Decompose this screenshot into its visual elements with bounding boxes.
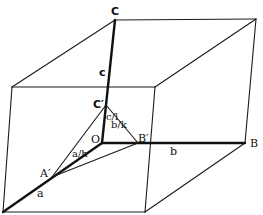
label-c: c — [99, 66, 106, 79]
top-back-edge — [115, 19, 256, 20]
label-C-prime: C′ — [93, 98, 104, 111]
top-right-edge — [155, 19, 256, 87]
right-back-vertical — [245, 19, 256, 143]
left-front-vertical — [3, 87, 12, 212]
label-B: B — [250, 137, 258, 150]
label-a: a — [37, 187, 44, 200]
label-B-prime: B′ — [138, 132, 149, 145]
label-A-prime: A′ — [39, 167, 51, 180]
crystal-axes-diagram: C C′ O A′ B′ B c b a a/h b/k c/l — [0, 0, 263, 215]
label-b: b — [170, 145, 177, 158]
label-c-over-l: c/l — [106, 111, 118, 122]
axes — [3, 20, 245, 212]
label-C: C — [111, 5, 119, 18]
label-O: O — [91, 133, 100, 146]
label-a-over-h: a/h — [72, 148, 88, 159]
bottom-right-edge — [145, 143, 245, 212]
right-front-vertical — [145, 87, 155, 212]
box-outline — [3, 19, 256, 212]
